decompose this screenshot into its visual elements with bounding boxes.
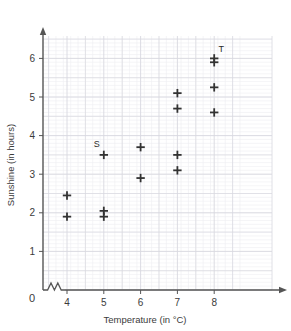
- axis-break-zigzag: [45, 283, 65, 292]
- y-tick-label-5: 5: [29, 92, 35, 103]
- y-tick-label-4: 4: [29, 130, 35, 141]
- y-tick-label-6: 6: [29, 53, 35, 64]
- data-point-marker: [210, 58, 218, 66]
- data-point-marker: [210, 108, 218, 116]
- chart-canvas: 45678 123456 0 ST Temperature (in °C) Su…: [0, 0, 291, 331]
- origin-label: 0: [29, 292, 35, 304]
- data-point-marker: [173, 104, 181, 112]
- x-tick-label-6: 6: [138, 297, 144, 308]
- scatter-plot-figure: 45678 123456 0 ST Temperature (in °C) Su…: [0, 0, 291, 331]
- data-point-marker: [63, 191, 71, 199]
- x-tick-label-5: 5: [101, 297, 107, 308]
- data-point-marker: [100, 151, 108, 159]
- data-point-marker: [210, 83, 218, 91]
- y-tick-label-1: 1: [29, 246, 35, 257]
- axis-lines: [40, 27, 287, 293]
- grid-minor-lines: [43, 36, 272, 290]
- origin-zero-label: 0: [29, 292, 35, 304]
- data-point-marker: [173, 151, 181, 159]
- x-axis-title: Temperature (in °C): [104, 314, 187, 325]
- y-tick-label-2: 2: [29, 207, 35, 218]
- y-tick-label-3: 3: [29, 169, 35, 180]
- data-point-marker: [173, 89, 181, 97]
- x-tick-label-4: 4: [64, 297, 70, 308]
- axis-ticks: [39, 58, 214, 294]
- x-tick-label-7: 7: [175, 297, 181, 308]
- y-tick-labels: 123456: [29, 53, 35, 257]
- data-point-marker: [136, 143, 144, 151]
- data-point-marker: [173, 166, 181, 174]
- x-tick-label-8: 8: [211, 297, 217, 308]
- point-label-S: S: [94, 139, 100, 149]
- data-point-marker: [136, 174, 144, 182]
- data-point-marker: [100, 212, 108, 220]
- data-point-marker: [63, 212, 71, 220]
- y-axis-title: Sunshine (in hours): [5, 124, 16, 206]
- x-tick-labels: 45678: [64, 297, 217, 308]
- point-label-T: T: [218, 44, 224, 54]
